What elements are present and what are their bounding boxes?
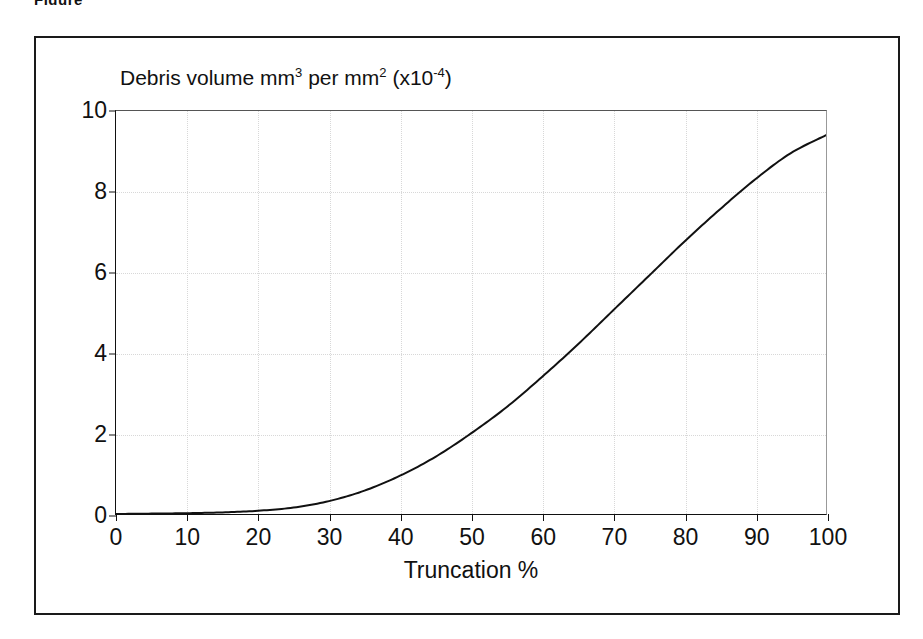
data-curve-layer [116,111,826,514]
y-tick-mark [109,192,116,193]
x-tick-mark [614,514,615,521]
x-tick-mark [828,514,829,521]
chart-title-mid: per mm [302,66,379,89]
y-tick-label: 10 [81,97,107,124]
x-tick-mark [330,514,331,521]
x-tick-label: 80 [673,524,699,551]
y-tick-mark [109,354,116,355]
x-tick-mark [543,514,544,521]
chart-title-close: ) [445,66,452,89]
y-tick-mark [109,435,116,436]
y-tick-label: 8 [94,178,107,205]
y-tick-mark [109,516,116,517]
chart-title-sup-minus4: -4 [433,65,445,80]
x-tick-mark [757,514,758,521]
x-tick-label: 60 [530,524,556,551]
x-tick-label: 70 [602,524,628,551]
y-tick-label: 0 [94,502,107,529]
x-tick-mark [258,514,259,521]
chart-title: Debris volume mm3 per mm2 (x10-4) [120,65,452,90]
chart-title-lead: Debris volume mm [120,66,295,89]
x-tick-label: 50 [459,524,485,551]
x-tick-mark [116,514,117,521]
data-curve [116,135,826,514]
chart-title-tail: (x10 [387,66,434,89]
x-tick-label: 30 [317,524,343,551]
x-tick-mark [472,514,473,521]
figure-frame: Debris volume mm3 per mm2 (x10-4) 024681… [34,36,900,615]
x-tick-mark [187,514,188,521]
y-tick-label: 4 [94,340,107,367]
y-tick-label: 6 [94,259,107,286]
chart-title-sup-2: 2 [379,65,386,80]
x-tick-mark [401,514,402,521]
x-tick-label: 10 [174,524,200,551]
x-tick-label: 0 [110,524,123,551]
plot-area: 02468100102030405060708090100 [115,110,827,515]
y-tick-label: 2 [94,421,107,448]
y-tick-mark [109,273,116,274]
x-tick-label: 40 [388,524,414,551]
x-axis-title: Truncation % [115,557,827,584]
x-tick-label: 100 [809,524,847,551]
y-tick-mark [109,111,116,112]
x-tick-mark [686,514,687,521]
x-tick-label: 90 [744,524,770,551]
x-tick-label: 20 [246,524,272,551]
caption-fragment: Figure [34,0,154,5]
